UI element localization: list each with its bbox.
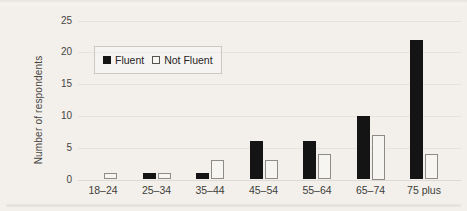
fluent-swatch-icon <box>103 56 111 64</box>
bar-fluent-65–74 <box>357 116 370 180</box>
bar-fluent-45–54 <box>250 141 263 179</box>
bar-fluent-55–64 <box>303 141 316 179</box>
bar-fluent-25–34 <box>143 173 156 179</box>
y-tick-label-5: 5 <box>46 143 72 153</box>
legend-label-fluent: Fluent <box>115 54 144 66</box>
y-axis-title: Number of respondents <box>33 56 44 165</box>
gridline-10 <box>78 116 461 117</box>
legend-item-not-fluent: Not Fluent <box>152 54 212 66</box>
bar-not-fluent-75-plus <box>425 154 438 179</box>
bar-chart-figure: Number of respondents 0510152025 18–2425… <box>0 0 467 211</box>
scan-artifact-top <box>0 0 467 7</box>
bar-not-fluent-55–64 <box>318 154 331 179</box>
gridline-5 <box>78 148 461 149</box>
y-tick-label-10: 10 <box>46 111 72 121</box>
y-tick-label-0: 0 <box>46 175 72 185</box>
gridline-0 <box>78 180 461 181</box>
bar-not-fluent-45–54 <box>265 160 278 179</box>
bar-not-fluent-65–74 <box>372 135 385 180</box>
bar-fluent-35–44 <box>196 173 209 179</box>
gridline-25 <box>78 21 461 22</box>
y-tick-label-15: 15 <box>46 79 72 89</box>
x-category-label-45–54: 45–54 <box>237 184 291 196</box>
x-category-label-75-plus: 75 plus <box>397 184 451 196</box>
y-tick-label-25: 25 <box>46 16 72 26</box>
not-fluent-swatch-icon <box>152 56 160 64</box>
x-category-label-65–74: 65–74 <box>344 184 398 196</box>
bar-fluent-75-plus <box>410 40 423 180</box>
scan-artifact-bottom <box>6 204 461 207</box>
x-category-label-55–64: 55–64 <box>290 184 344 196</box>
legend-item-fluent: Fluent <box>103 54 144 66</box>
y-tick-label-20: 20 <box>46 47 72 57</box>
x-category-label-18–24: 18–24 <box>76 184 130 196</box>
legend: Fluent Not Fluent <box>94 46 222 74</box>
bar-not-fluent-35–44 <box>211 160 224 179</box>
gridline-15 <box>78 84 461 85</box>
legend-label-not-fluent: Not Fluent <box>164 54 212 66</box>
x-category-label-35–44: 35–44 <box>183 184 237 196</box>
x-category-label-25–34: 25–34 <box>130 184 184 196</box>
bar-not-fluent-25–34 <box>158 173 171 179</box>
bar-not-fluent-18–24 <box>104 173 117 179</box>
